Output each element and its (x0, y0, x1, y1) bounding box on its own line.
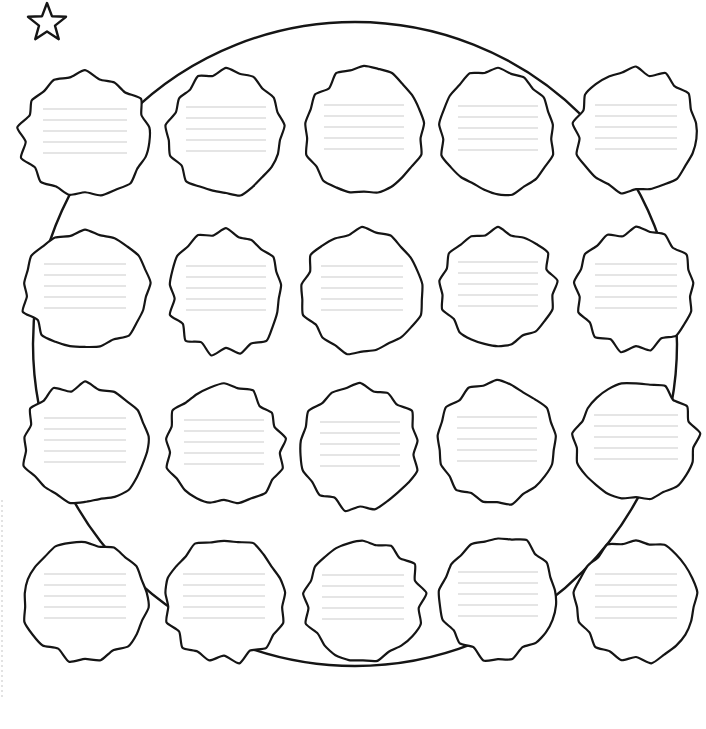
blob-outline[interactable] (24, 542, 149, 662)
worksheet-drawing (0, 0, 706, 729)
blob-outline[interactable] (165, 541, 285, 663)
worksheet-canvas (0, 0, 706, 729)
blob-card[interactable] (165, 541, 285, 663)
blob-card[interactable] (24, 542, 149, 662)
